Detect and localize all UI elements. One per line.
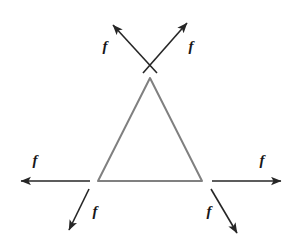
arrow-line: [143, 23, 187, 73]
force-vector-bottom-left-horizontal: f: [21, 152, 90, 181]
arrow-line: [211, 189, 237, 233]
force-label-bottom-left-diagonal: f: [93, 203, 100, 219]
force-label-apex-upper-right: f: [189, 38, 196, 54]
force-label-bottom-right-diagonal: f: [207, 203, 214, 219]
force-label-apex-upper-left: f: [103, 38, 110, 54]
force-label-bottom-left-horizontal: f: [33, 152, 40, 168]
triangle-shape: [98, 78, 202, 181]
force-vector-bottom-right-diagonal: f: [207, 189, 238, 233]
force-vector-bottom-left-diagonal: f: [69, 189, 100, 230]
force-label-bottom-right-horizontal: f: [260, 152, 267, 168]
figure-canvas: f f f f f f: [0, 0, 295, 250]
force-vector-bottom-right-horizontal: f: [212, 152, 281, 181]
arrow-line: [69, 189, 89, 230]
force-diagram: f f f f f f: [0, 0, 295, 250]
